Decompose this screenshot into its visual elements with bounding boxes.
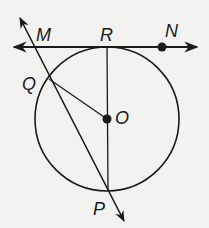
- label-q: Q: [22, 74, 36, 94]
- label-n: N: [165, 21, 179, 41]
- label-r: R: [100, 25, 113, 45]
- label-p: P: [93, 199, 105, 219]
- geometry-diagram: M R N Q O P: [0, 0, 209, 228]
- label-m: M: [36, 25, 51, 45]
- point-o-dot: [103, 115, 112, 124]
- point-n-dot: [158, 43, 167, 52]
- label-o: O: [115, 108, 129, 128]
- segment-qo: [49, 79, 107, 119]
